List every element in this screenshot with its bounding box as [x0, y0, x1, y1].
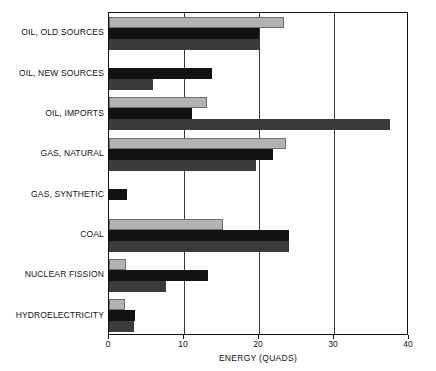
category-label: HYDROELECTRICITY	[2, 310, 104, 320]
bar	[109, 17, 284, 28]
bar	[109, 299, 125, 310]
energy-bar-chart: OIL, OLD SOURCESOIL, NEW SOURCESOIL, IMP…	[0, 0, 436, 371]
x-tick-label-20: 20	[253, 339, 262, 349]
plot-area	[108, 12, 408, 335]
category-label: OIL, OLD SOURCES	[2, 27, 104, 37]
bar	[109, 281, 166, 292]
bar-group	[109, 178, 407, 211]
category-axis: OIL, OLD SOURCESOIL, NEW SOURCESOIL, IMP…	[0, 12, 104, 335]
bar	[109, 39, 259, 50]
category-label: NUCLEAR FISSION	[2, 269, 104, 279]
x-axis: ENERGY (QUADS) 010203040	[108, 335, 408, 371]
bar	[109, 160, 256, 171]
bar	[109, 97, 207, 108]
x-axis-title: ENERGY (QUADS)	[108, 353, 408, 363]
x-tick-label-30: 30	[328, 339, 337, 349]
bar	[109, 270, 208, 281]
bar-group	[109, 138, 407, 171]
bar	[109, 321, 134, 332]
bar	[109, 138, 286, 149]
bar	[109, 241, 289, 252]
bar-group	[109, 17, 407, 50]
bar	[109, 259, 126, 270]
category-label: GAS, SYNTHETIC	[2, 189, 104, 199]
category-label: GAS, NATURAL	[2, 148, 104, 158]
bar	[109, 68, 212, 79]
x-tick-label-10: 10	[178, 339, 187, 349]
bar-group	[109, 259, 407, 292]
bar	[109, 79, 153, 90]
bar	[109, 310, 135, 321]
bar-group	[109, 299, 407, 332]
category-label: COAL	[2, 229, 104, 239]
bar	[109, 28, 259, 39]
bar-group	[109, 57, 407, 90]
bar-group	[109, 97, 407, 130]
bar	[109, 189, 127, 200]
bar-group	[109, 219, 407, 252]
category-label: OIL, IMPORTS	[2, 108, 104, 118]
category-label: OIL, NEW SOURCES	[2, 68, 104, 78]
x-tick-label-0: 0	[106, 339, 111, 349]
bar	[109, 230, 289, 241]
bar	[109, 219, 223, 230]
bar	[109, 108, 192, 119]
x-tick-label-40: 40	[403, 339, 412, 349]
bar	[109, 149, 273, 160]
bar	[109, 119, 390, 130]
